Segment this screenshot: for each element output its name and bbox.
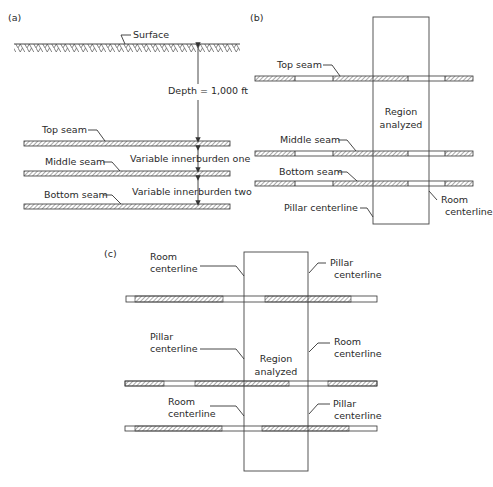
room-centerline-label-b-2: centerline [445,206,493,217]
seam-middle-b [255,151,473,156]
callout-c-1-l2: centerline [150,263,198,274]
seam-top-c [126,296,377,302]
panel-a-tag: (a) [8,12,21,23]
callout-c-4-l1: Room [334,336,361,347]
callout-c-2-leader [309,263,326,273]
callout-c-2-l1: Pillar [330,257,353,268]
callout-c-3-l2: centerline [150,343,198,354]
seam-top-a [24,141,230,146]
middle-seam-label-b: Middle seam [280,134,340,145]
region-label-b-2: analyzed [380,119,423,130]
pillar-centerline-leader-b [360,208,373,217]
top-seam-label-b: Top seam [276,59,322,70]
region-label-c-2: analyzed [255,366,298,377]
seam-bottom-c [125,426,377,431]
callout-c-1-leader [200,266,244,276]
panel-b: (b) Region analyzed [250,12,493,224]
depth-label: Depth = 1,000 ft [168,85,248,96]
mine-seam-diagram: (a) Surface Depth = 1,000 ft Top seam Mi… [0,0,493,487]
innerburden-one-label: Variable innerburden one [130,153,250,164]
pillar-centerline-label-b: Pillar centerline [284,202,358,213]
innerburden-two-label: Variable innerburden two [132,186,252,197]
surface-leader [121,35,131,44]
surface-label: Surface [133,29,169,40]
callout-c-3-l1: Pillar [150,331,173,342]
bottom-seam-label-b: Bottom seam [279,166,343,177]
seam-bottom-a [24,204,230,209]
panel-c-tag: (c) [104,248,117,259]
seam-middle-a [24,171,230,176]
callout-c-2-l2: centerline [334,269,382,280]
top-seam-leader-a [88,130,105,141]
callout-c-5-l2: centerline [168,408,216,419]
middle-seam-leader-b [338,140,356,151]
callout-c-6-leader [309,404,330,414]
top-seam-leader-b [323,65,340,76]
room-centerline-label-b-1: Room [441,194,468,205]
callout-c-3-leader [200,349,244,359]
ground-surface [14,44,240,52]
seam-bottom-b [255,181,473,186]
seam-middle-c [125,381,377,386]
region-label-c-1: Region [260,353,293,364]
middle-seam-leader-a [103,162,120,171]
panel-a: (a) Surface Depth = 1,000 ft Top seam Mi… [8,12,252,209]
panel-c: (c) Region analyzed Room centerline Pill… [104,248,382,471]
bottom-seam-label-a: Bottom seam [44,189,108,200]
callout-c-6-l2: centerline [334,410,382,421]
callout-c-4-l2: centerline [334,348,382,359]
callout-c-5-l1: Room [168,396,195,407]
callout-c-6-l1: Pillar [333,398,356,409]
callout-c-1-l1: Room [150,251,177,262]
top-seam-label-a: Top seam [41,124,87,135]
panel-b-tag: (b) [250,12,263,23]
room-centerline-leader-b [429,191,437,200]
middle-seam-label-a: Middle seam [45,156,105,167]
callout-c-4-leader [309,343,330,352]
region-label-b-1: Region [385,106,418,117]
seam-top-b [255,76,473,81]
